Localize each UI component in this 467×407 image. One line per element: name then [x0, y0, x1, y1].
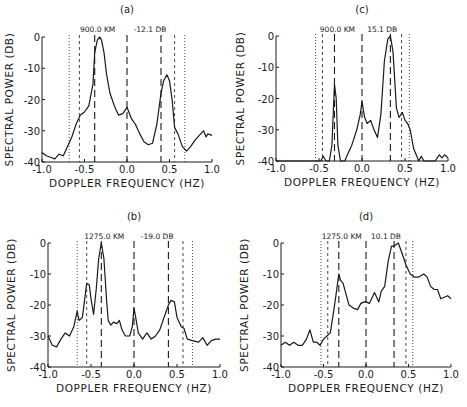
panel-c-x-axis-label: DOPPLER FREQUENCY (HZ): [284, 176, 440, 188]
x-tick-label: 1.0: [212, 369, 228, 380]
panel-b-y-axis-label: SPECTRAL POWER (DB): [5, 238, 17, 372]
figure-canvas: (a) 0-10-20-30-40-1.0-0.50.00.51.0 900.0…: [0, 0, 467, 407]
panel-a-axes: 0-10-20-30-40-1.0-0.50.00.51.0: [24, 32, 220, 175]
x-tick-label: -1.0: [38, 369, 58, 380]
x-tick-label: -0.5: [309, 163, 329, 174]
panel-c-range-annotation: 900.0 KM: [320, 25, 355, 34]
y-tick-label: -20: [24, 95, 40, 106]
y-tick-label: -10: [30, 269, 46, 280]
y-tick-label: 0: [40, 238, 46, 249]
panel-c: (c) 0-10-20-30-40-1.0-0.50.00.51.0 900.0…: [234, 4, 456, 188]
y-tick-label: 0: [273, 238, 279, 249]
panel-c-db-annotation: 15.1 DB: [367, 25, 397, 34]
x-tick-label: 0.5: [397, 163, 413, 174]
panel-d-title: (d): [359, 211, 373, 222]
panel-c-title: (c): [355, 4, 368, 15]
y-tick-label: -30: [30, 331, 46, 342]
x-tick-label: 0.5: [401, 369, 417, 380]
panel-a-reference-lines: [69, 35, 185, 162]
x-tick-label: 1.0: [443, 369, 459, 380]
panel-c-axes: 0-10-20-30-40-1.0-0.50.00.51.0: [258, 31, 456, 174]
x-tick-label: -0.5: [81, 369, 101, 380]
y-tick-label: 0: [268, 31, 274, 42]
panel-b-axes: 0-10-20-30-40-1.0-0.50.00.51.0: [30, 238, 228, 380]
panel-b-x-axis-label: DOPPLER FREQUENCY (HZ): [56, 382, 212, 394]
panel-d-db-annotation: 10.1 DB: [371, 232, 401, 241]
panel-b-db-annotation: -19.0 DB: [141, 232, 174, 241]
x-tick-label: 0.5: [162, 164, 178, 175]
panel-a-title: (a): [120, 4, 134, 15]
y-tick-label: -10: [24, 63, 40, 74]
y-tick-label: -30: [24, 126, 40, 137]
y-tick-label: -20: [30, 300, 46, 311]
x-tick-label: 1.0: [204, 164, 220, 175]
x-tick-label: -0.5: [314, 369, 334, 380]
x-tick-label: 0.5: [169, 369, 185, 380]
y-tick-label: 0: [34, 32, 40, 43]
panel-d-y-axis-label: SPECTRAL POWER (DB): [238, 238, 250, 372]
y-tick-label: -10: [258, 62, 274, 73]
panel-d-axes: 0-10-20-30-40-1.0-0.50.00.51.0: [263, 238, 459, 380]
panel-b-title: (b): [127, 211, 141, 222]
y-tick-label: -30: [258, 125, 274, 136]
x-tick-label: -1.0: [32, 164, 52, 175]
y-tick-label: -10: [263, 269, 279, 280]
panel-a-db-annotation: -12.1 DB: [134, 25, 167, 34]
panel-d-x-axis-label: DOPPLER FREQUENCY (HZ): [288, 382, 444, 394]
panel-c-spectrum-line: [276, 36, 448, 161]
x-tick-label: -1.0: [266, 163, 286, 174]
panel-d: (d) 0-10-20-30-40-1.0-0.50.00.51.0 1275.…: [238, 211, 459, 394]
x-tick-label: 0.0: [354, 163, 370, 174]
panel-a-y-axis-label: SPECTRAL POWER (DB): [3, 33, 15, 167]
panel-d-range-annotation: 1275.0 KM: [322, 232, 362, 241]
y-tick-label: -20: [258, 94, 274, 105]
x-tick-label: -1.0: [271, 369, 291, 380]
x-tick-label: 0.0: [358, 369, 374, 380]
panel-a-range-annotation: 900.0 KM: [80, 25, 115, 34]
panel-c-y-axis-label: SPECTRAL POWER (DB): [234, 32, 246, 166]
panel-a-x-axis-label: DOPPLER FREQUENCY (HZ): [49, 177, 205, 189]
panel-a: (a) 0-10-20-30-40-1.0-0.50.00.51.0 900.0…: [3, 4, 220, 189]
x-tick-label: 0.0: [119, 164, 135, 175]
panel-b: (b) 0-10-20-30-40-1.0-0.50.00.51.0 1275.…: [5, 211, 228, 394]
y-tick-label: -20: [263, 300, 279, 311]
y-tick-label: -30: [263, 331, 279, 342]
x-tick-label: 1.0: [440, 163, 456, 174]
panel-b-range-annotation: 1275.0 KM: [84, 232, 124, 241]
x-tick-label: -0.5: [75, 164, 95, 175]
x-tick-label: 0.0: [126, 369, 142, 380]
